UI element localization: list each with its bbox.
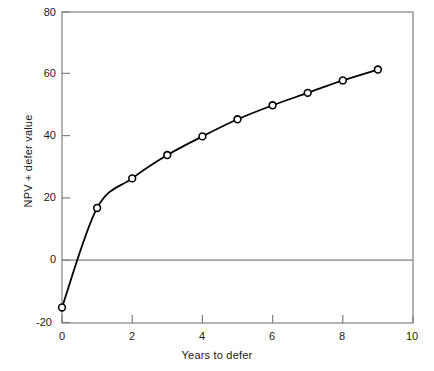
x-tick-label-0: 0 (47, 330, 77, 342)
y-tick-marks (62, 12, 70, 323)
y-tick-label-20: 20 (22, 191, 56, 203)
plot-area (0, 0, 434, 371)
data-point-8 (339, 77, 346, 84)
data-markers (59, 66, 382, 311)
data-point-0 (59, 304, 66, 311)
x-tick-label-4: 4 (187, 330, 217, 342)
data-point-9 (375, 66, 382, 73)
y-tick-label-minus20: -20 (18, 316, 52, 328)
data-point-4 (199, 133, 206, 140)
data-point-6 (269, 102, 276, 109)
data-point-1 (94, 205, 101, 212)
y-axis-title: NPV + defer value (22, 71, 34, 251)
x-axis-title: Years to defer (0, 349, 434, 361)
x-tick-marks (62, 315, 413, 323)
y-tick-label-60: 60 (22, 67, 56, 79)
data-point-7 (304, 89, 311, 96)
y-tick-label-80: 80 (22, 6, 56, 18)
data-point-5 (234, 116, 241, 123)
y-tick-label-40: 40 (22, 129, 56, 141)
chart-figure: NPV + defer value Years to defer 80 60 4… (0, 0, 434, 371)
x-tick-label-10: 10 (397, 330, 427, 342)
x-tick-label-2: 2 (117, 330, 147, 342)
data-line (62, 70, 378, 308)
x-tick-label-6: 6 (257, 330, 287, 342)
y-tick-label-0: 0 (22, 253, 56, 265)
plot-frame (62, 12, 413, 323)
x-tick-label-8: 8 (327, 330, 357, 342)
data-point-2 (129, 175, 136, 182)
data-point-3 (164, 152, 171, 159)
